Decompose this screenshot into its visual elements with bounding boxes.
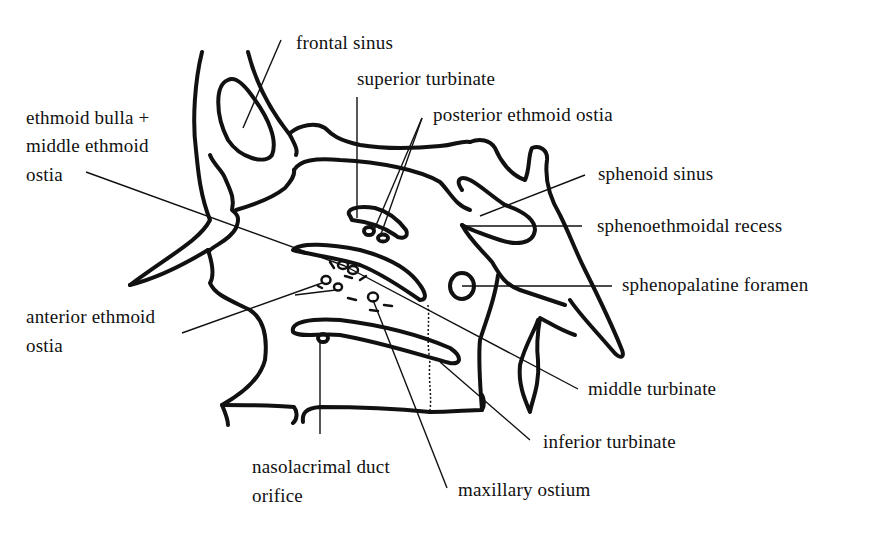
label-sphenoethmoidal-recess: sphenoethmoidal recess [597,215,782,237]
label-nasolacrimal-1: nasolacrimal duct [252,456,390,478]
label-nasolacrimal-2: orifice [252,485,303,507]
label-anterior-ethmoid-2: ostia [26,335,63,357]
label-inferior-turbinate: inferior turbinate [543,431,676,453]
leader-sphenoid-sinus [480,175,585,216]
leader-inferior-turbinate [440,362,530,440]
label-frontal-sinus: frontal sinus [296,32,393,54]
leader-anterior-ethmoid [182,283,322,333]
label-middle-turbinate: middle turbinate [588,378,716,400]
label-superior-turbinate: superior turbinate [357,68,495,90]
anatomy-figure: frontal sinus superior turbinate posteri… [0,0,880,534]
frontal-bone-outline [130,52,210,285]
label-ethmoid-bulla-1: ethmoid bulla + [26,107,149,129]
label-ethmoid-bulla-3: ostia [26,164,63,186]
label-anterior-ethmoid-1: anterior ethmoid [26,306,155,328]
leader-posterior-ethmoid [374,118,422,230]
label-posterior-ethmoid-ostia: posterior ethmoid ostia [433,104,613,126]
label-ethmoid-bulla-2: middle ethmoid [26,135,149,157]
label-sphenoid-sinus: sphenoid sinus [598,163,713,185]
label-sphenopalatine-foramen: sphenopalatine foramen [622,274,808,296]
label-maxillary-ostium: maxillary ostium [458,479,591,501]
leader-ethmoid-bulla [86,172,345,266]
middle-turbinate-shape [293,245,425,300]
